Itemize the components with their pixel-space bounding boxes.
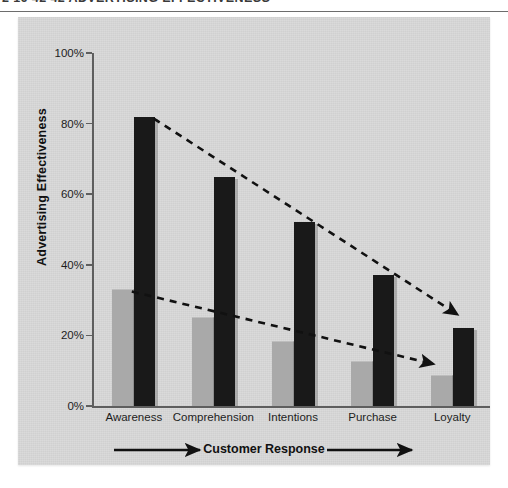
bar-light-gray-series-awareness — [112, 289, 134, 406]
y-axis-tick-label: 20% — [61, 329, 84, 341]
category-label-awareness: Awareness — [105, 411, 162, 423]
y-axis-tick-label: 0% — [67, 400, 84, 412]
y-axis-tick — [86, 52, 92, 54]
y-axis-tick-label: 60% — [61, 188, 84, 200]
x-axis-baseline — [92, 406, 490, 408]
category-label-purchase: Purchase — [348, 411, 397, 423]
category-label-comprehension: Comprehension — [173, 411, 254, 423]
bar-dark-series-comprehension — [214, 177, 235, 406]
plot-area: AwarenessComprehensionIntentionsPurchase… — [92, 53, 490, 406]
bar-light-gray-series-loyalty — [431, 375, 453, 406]
y-axis-line — [92, 53, 94, 406]
y-axis-tick-label: 100% — [55, 47, 84, 59]
y-axis-tick — [86, 335, 92, 337]
bar-dark-series-intentions — [294, 222, 315, 406]
bar-dark-series-purchase — [373, 275, 394, 406]
chart-panel: Advertising Effectiveness 0%20%40%60%80%… — [18, 17, 490, 465]
y-axis-tick — [86, 264, 92, 266]
running-head-text: 2 16 42 42 ADVERTISING EFFECTIVENESS — [2, 0, 270, 5]
bar-light-gray-series-purchase — [351, 361, 373, 406]
bar-dark-series-loyalty — [453, 328, 474, 406]
y-axis-tick — [86, 123, 92, 125]
category-label-loyalty: Loyalty — [434, 411, 470, 423]
category-label-intentions: Intentions — [268, 411, 318, 423]
y-axis-tick — [86, 405, 92, 407]
y-axis-tick-label: 40% — [61, 259, 84, 271]
bar-dark-series-awareness — [134, 117, 155, 406]
y-axis-tick-label: 80% — [61, 118, 84, 130]
bar-light-gray-series-comprehension — [192, 317, 214, 406]
y-axis-tick — [86, 193, 92, 195]
y-axis-tick-labels: 0%20%40%60%80%100% — [18, 17, 84, 370]
header-divider-rule — [0, 11, 508, 12]
customer-response-annotation: Customer Response — [114, 442, 414, 464]
customer-response-label: Customer Response — [203, 442, 325, 456]
bar-light-gray-series-intentions — [272, 341, 294, 406]
